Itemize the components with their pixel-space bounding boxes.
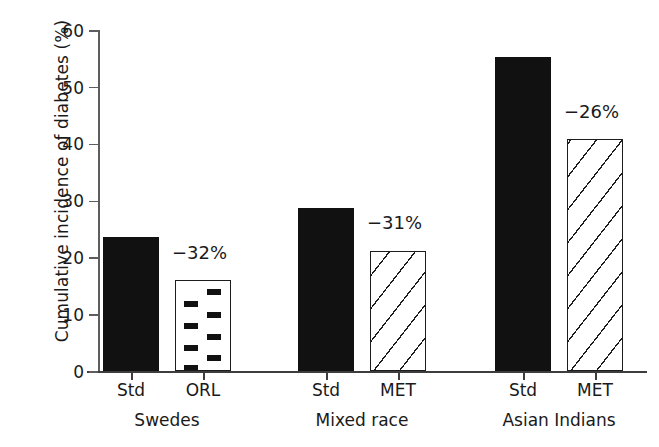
y-tick-50: 50 xyxy=(89,87,98,89)
bar-asian-met xyxy=(567,139,623,371)
y-tick-label-50: 50 xyxy=(62,78,84,98)
group-label-mixed-race: Mixed race xyxy=(316,410,409,430)
bar-chart-figure: Cumulative incidence of diabetes (%) 60 … xyxy=(0,0,659,447)
plot-area: 60 50 40 30 20 10 0 xyxy=(98,30,644,371)
dash-mark xyxy=(207,355,221,361)
y-tick-40: 40 xyxy=(89,144,98,146)
bar-asian-std xyxy=(495,57,551,371)
y-tick-label-40: 40 xyxy=(62,134,84,154)
group-label-swedes: Swedes xyxy=(134,410,199,430)
annotation-mixed-pct: −31% xyxy=(367,212,422,233)
y-tick-label-60: 60 xyxy=(62,21,84,41)
dash-mark xyxy=(184,345,198,351)
dash-mark xyxy=(207,289,221,295)
y-tick-10: 10 xyxy=(89,314,98,316)
y-axis-line xyxy=(98,30,100,371)
x-tick-mixed-met xyxy=(398,371,400,380)
y-tick-60: 60 xyxy=(89,30,98,32)
bar-mixed-met xyxy=(370,251,426,372)
y-tick-label-10: 10 xyxy=(62,305,84,325)
x-tick-asian-std xyxy=(523,371,525,380)
x-tick-swedes-orl xyxy=(203,371,205,380)
x-tick-label-swedes-std: Std xyxy=(117,380,145,400)
annotation-asian-pct: −26% xyxy=(564,101,619,122)
x-tick-label-asian-std: Std xyxy=(509,380,537,400)
x-tick-label-swedes-orl: ORL xyxy=(186,380,221,400)
x-axis-line xyxy=(87,371,647,373)
dash-mark xyxy=(184,323,198,329)
group-label-asian-indians: Asian Indians xyxy=(502,410,615,430)
dash-mark xyxy=(207,334,221,340)
y-tick-20: 20 xyxy=(89,257,98,259)
x-tick-label-asian-met: MET xyxy=(577,380,613,400)
y-tick-label-0: 0 xyxy=(73,362,84,382)
dash-mark xyxy=(184,365,198,371)
y-tick-label-20: 20 xyxy=(62,248,84,268)
x-tick-label-mixed-met: MET xyxy=(380,380,416,400)
x-tick-asian-met xyxy=(595,371,597,380)
y-tick-30: 30 xyxy=(89,201,98,203)
y-tick-label-30: 30 xyxy=(62,191,84,211)
bar-mixed-std xyxy=(298,208,354,371)
y-tick-0: 0 xyxy=(89,371,98,373)
x-tick-label-mixed-std: Std xyxy=(312,380,340,400)
bar-swedes-std xyxy=(103,237,159,371)
dash-mark xyxy=(184,301,198,307)
x-tick-mixed-std xyxy=(326,371,328,380)
annotation-swedes-pct: −32% xyxy=(172,242,227,263)
bar-swedes-orl xyxy=(175,280,231,371)
dash-mark xyxy=(207,312,221,318)
x-tick-swedes-std xyxy=(131,371,133,380)
